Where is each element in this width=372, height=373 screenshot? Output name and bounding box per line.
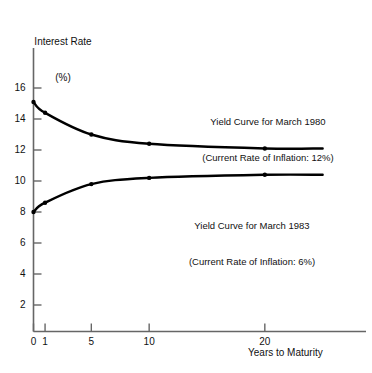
series-1	[31, 100, 322, 151]
curve-line	[34, 175, 323, 212]
axis-lines	[34, 48, 367, 332]
data-point-marker	[43, 201, 47, 205]
y-axis-ticks	[34, 88, 42, 305]
data-point-marker	[263, 146, 267, 150]
series-2	[31, 173, 322, 215]
data-point-marker	[31, 100, 35, 104]
plot-area	[0, 0, 372, 373]
data-point-marker	[147, 176, 151, 180]
curve-line	[34, 102, 323, 149]
yield-curve-chart: Interest Rate (%) Years to Maturity Yiel…	[0, 0, 372, 373]
data-point-marker	[89, 132, 93, 136]
data-point-marker	[263, 173, 267, 177]
data-point-marker	[31, 210, 35, 214]
x-axis-ticks	[34, 324, 265, 332]
data-point-marker	[147, 142, 151, 146]
data-point-marker	[89, 182, 93, 186]
series-layer	[31, 100, 322, 214]
data-point-marker	[43, 111, 47, 115]
